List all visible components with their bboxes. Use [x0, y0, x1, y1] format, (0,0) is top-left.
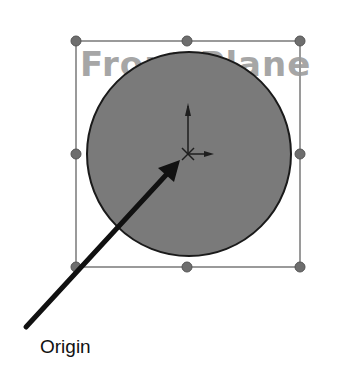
origin-callout-label: Origin	[40, 336, 91, 358]
handle-middle-left[interactable]	[71, 149, 81, 159]
handle-top-right[interactable]	[295, 36, 305, 46]
handle-bottom-middle[interactable]	[182, 262, 192, 272]
handle-top-middle[interactable]	[182, 36, 192, 46]
handle-bottom-right[interactable]	[295, 262, 305, 272]
sketch-canvas: Front Plane	[0, 0, 359, 374]
handle-top-left[interactable]	[71, 36, 81, 46]
sketch-svg	[0, 0, 359, 374]
handle-middle-right[interactable]	[295, 149, 305, 159]
